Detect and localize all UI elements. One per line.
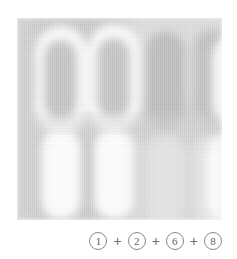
figure-root: 1 + 2 + 6 + 8: [0, 0, 237, 259]
plus-operator: +: [151, 234, 161, 248]
circled-number-term-2: 2: [128, 232, 146, 250]
plus-operator: +: [189, 234, 199, 248]
circled-number-term-1: 1: [89, 232, 107, 250]
row-seam-wash: [17, 116, 222, 130]
circled-number-term-3: 6: [166, 232, 184, 250]
circled-number-term-4: 8: [204, 232, 222, 250]
mode-pattern-image: [17, 18, 222, 220]
plus-operator: +: [112, 234, 122, 248]
figure-caption: 1 + 2 + 6 + 8: [17, 228, 222, 254]
mode-pattern-panel: [17, 18, 222, 220]
